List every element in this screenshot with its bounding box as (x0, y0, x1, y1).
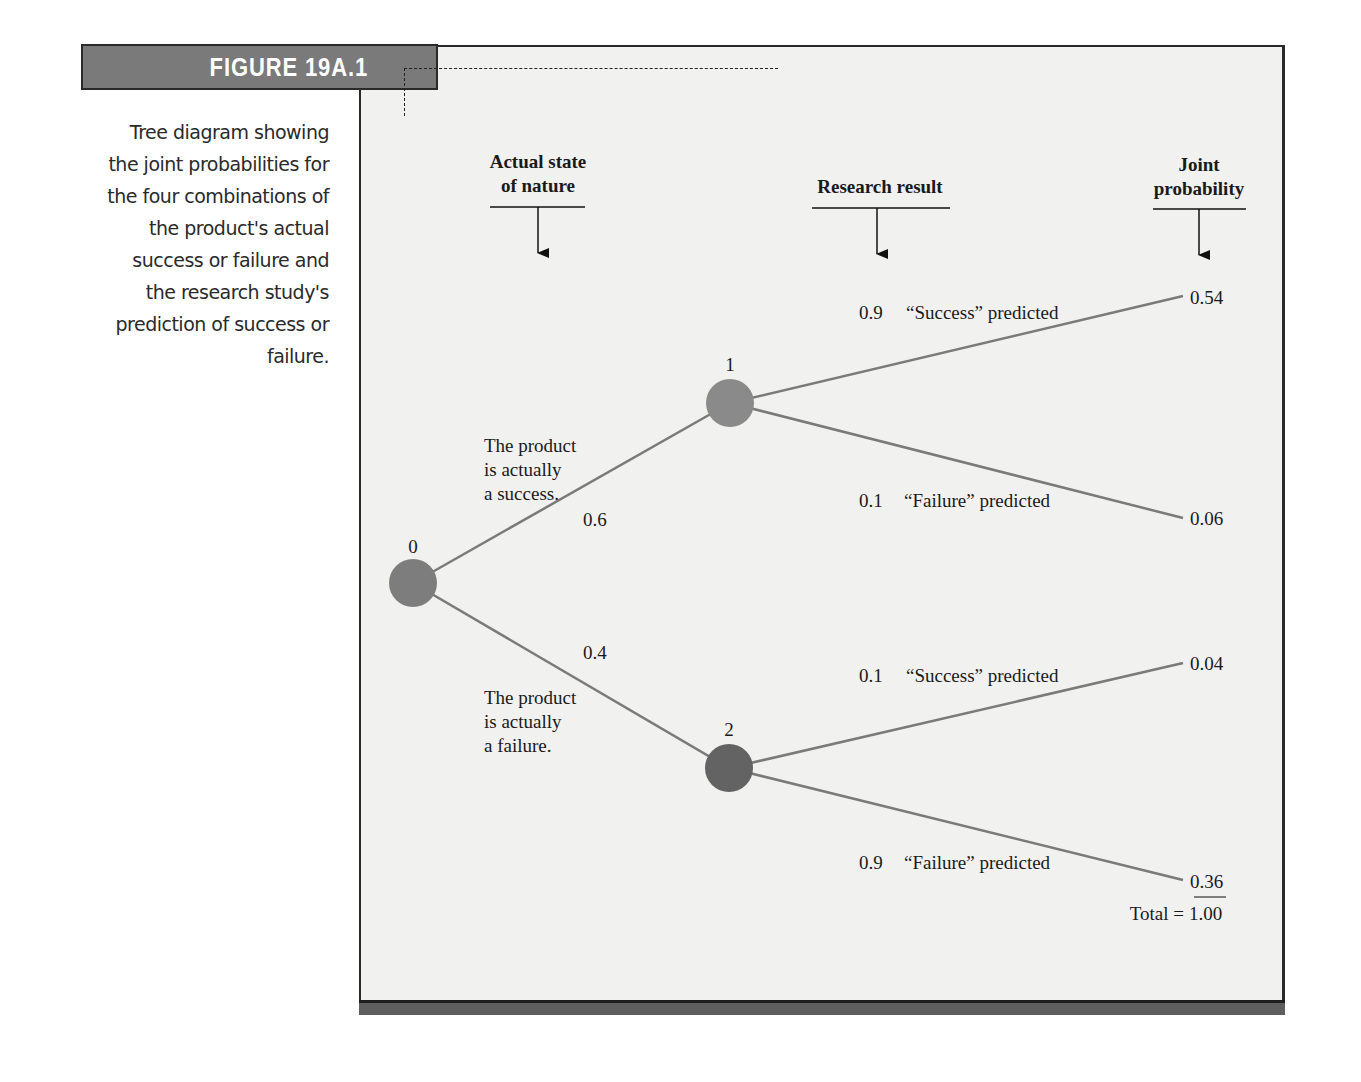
node-1: 1 (706, 354, 754, 427)
node-2: 2 (705, 719, 753, 792)
outcome-probability: 0.9 (859, 302, 883, 323)
joint-probability: 0.04 (1190, 653, 1224, 674)
branch-line-success (413, 403, 730, 583)
branch-text: is actually (484, 711, 562, 732)
branch-text: a failure. (484, 735, 552, 756)
header-text: Joint (1178, 154, 1220, 175)
header-text: Actual state (490, 151, 587, 172)
outcome-probability: 0.1 (859, 665, 883, 686)
header-text: probability (1154, 178, 1245, 199)
outcome-probability: 0.1 (859, 490, 883, 511)
outcome-probability: 0.9 (859, 852, 883, 873)
node-label: 2 (724, 719, 734, 740)
column-header-research-result: Research result (812, 176, 950, 254)
outcome-prediction: “Failure” predicted (904, 490, 1051, 511)
total-value: 1.00 (1189, 903, 1222, 924)
outcome-1: 0.9 “Success” predicted 0.54 (859, 287, 1224, 323)
outcome-3: 0.1 “Success” predicted 0.04 (859, 653, 1224, 686)
total-label: Total = (1130, 903, 1184, 924)
node-0: 0 (389, 536, 437, 607)
branch-probability: 0.4 (583, 642, 607, 663)
total-row: Total = 1.00 (1130, 897, 1226, 924)
branch-text: a success. (484, 483, 559, 504)
outcome-2: 0.1 “Failure” predicted 0.06 (859, 490, 1223, 529)
chance-node-circle (706, 379, 754, 427)
branch-text: is actually (484, 459, 562, 480)
outcome-4: 0.9 “Failure” predicted 0.36 (859, 852, 1223, 892)
joint-probability: 0.36 (1190, 871, 1223, 892)
branch-lines (413, 296, 1183, 880)
column-header-state-of-nature: Actual state of nature (490, 151, 587, 253)
node-label: 1 (725, 354, 735, 375)
header-text: of nature (501, 175, 575, 196)
node-label: 0 (408, 536, 418, 557)
column-header-joint-probability: Joint probability (1153, 154, 1246, 255)
joint-probability: 0.06 (1190, 508, 1223, 529)
chance-node-circle (389, 559, 437, 607)
dashed-leader-horizontal (404, 68, 778, 69)
dashed-leader-vertical (404, 68, 405, 116)
outcome-prediction: “Success” predicted (906, 302, 1059, 323)
figure-label-box: FIGURE 19A.1 (81, 44, 438, 90)
branch-line-failure (413, 583, 729, 768)
outcome-prediction: “Success” predicted (906, 665, 1059, 686)
chance-node-circle (705, 744, 753, 792)
branch-text: The product (484, 435, 577, 456)
figure-label: FIGURE 19A.1 (210, 53, 368, 82)
tree-diagram: Actual state of nature Research result J… (0, 0, 1361, 1082)
joint-probability: 0.54 (1190, 287, 1224, 308)
branch-probability: 0.6 (583, 509, 607, 530)
branch-text: The product (484, 687, 577, 708)
outcome-prediction: “Failure” predicted (904, 852, 1051, 873)
header-text: Research result (817, 176, 943, 197)
branch-annotation-failure: 0.4 The product is actually a failure. (484, 642, 607, 756)
